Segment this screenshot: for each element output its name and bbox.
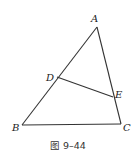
label-e: E [114, 89, 123, 100]
segment-ab [22, 27, 97, 125]
segment-de [57, 77, 113, 97]
segment-ac [97, 27, 121, 124]
label-c: C [123, 122, 131, 133]
label-d: D [45, 72, 54, 83]
label-a: A [90, 13, 98, 24]
figure-caption: 图 9–44 [50, 140, 86, 151]
triangle-diagram: A D E B C 图 9–44 [0, 0, 137, 156]
label-b: B [11, 122, 19, 133]
segment-bc [22, 124, 121, 125]
